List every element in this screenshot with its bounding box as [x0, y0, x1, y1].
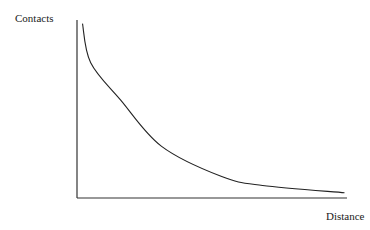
- chart-canvas: [0, 0, 370, 230]
- decay-curve: [83, 24, 345, 193]
- y-axis-label: Contacts: [15, 12, 54, 24]
- distance-decay-chart: Contacts Distance: [0, 0, 370, 230]
- x-axis-label: Distance: [326, 210, 364, 222]
